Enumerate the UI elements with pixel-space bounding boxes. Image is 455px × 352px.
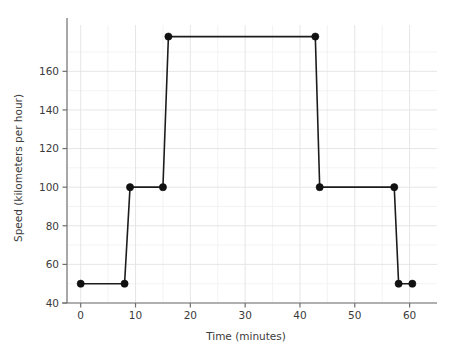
data-point-marker — [409, 280, 416, 287]
x-tick-label: 50 — [348, 309, 361, 321]
data-point-marker — [126, 184, 133, 191]
y-tick-label: 60 — [46, 258, 59, 270]
data-point-marker — [121, 280, 128, 287]
x-tick-label: 20 — [184, 309, 197, 321]
major-gridlines — [67, 25, 437, 303]
x-tick-label: 10 — [129, 309, 142, 321]
data-point-marker — [312, 33, 319, 40]
speed-line-path — [81, 37, 413, 284]
y-axis-title: Speed (kilometers per hour) — [12, 94, 24, 242]
x-tick-label: 0 — [77, 309, 84, 321]
y-tick-label: 160 — [39, 65, 59, 77]
y-axis-tick-labels: 406080100120140160 — [39, 65, 59, 309]
data-series-speed — [81, 37, 413, 284]
y-tick-label: 140 — [39, 104, 59, 116]
x-axis-title: Time (minutes) — [205, 330, 286, 342]
x-axis-tick-labels: 0102030405060 — [77, 309, 416, 321]
minor-gridlines — [67, 25, 437, 303]
axis-spines — [62, 18, 437, 303]
x-tick-label: 30 — [238, 309, 251, 321]
speed-time-line-chart: 0102030405060 406080100120140160 Time (m… — [0, 0, 455, 352]
chart-figure: 0102030405060 406080100120140160 Time (m… — [0, 0, 455, 352]
data-point-marker — [77, 280, 84, 287]
y-tick-label: 100 — [39, 181, 59, 193]
y-tick-label: 80 — [46, 220, 59, 232]
y-tick-label: 40 — [46, 297, 59, 309]
data-point-marker — [391, 184, 398, 191]
x-tick-label: 60 — [403, 309, 416, 321]
y-tick-label: 120 — [39, 142, 59, 154]
data-point-marker — [316, 184, 323, 191]
data-point-marker — [159, 184, 166, 191]
axis-tickmarks — [63, 71, 410, 307]
data-point-marker — [165, 33, 172, 40]
x-tick-label: 40 — [293, 309, 306, 321]
data-point-marker — [395, 280, 402, 287]
